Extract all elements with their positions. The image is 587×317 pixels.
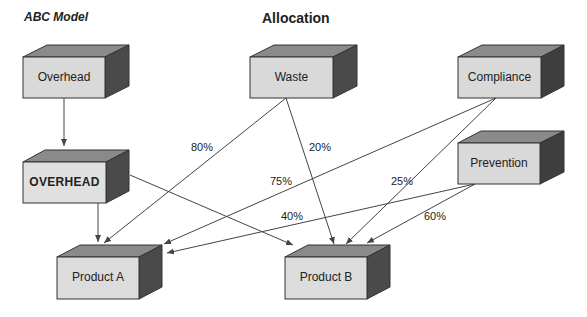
node-overhead-label: Overhead: [23, 70, 105, 84]
edge-prevention-to-product-b: [367, 184, 475, 243]
node-product-a-label: Product A: [57, 270, 139, 284]
edge-label-compliance-product-a: 75%: [270, 175, 292, 187]
node-prevention-label: Prevention: [458, 156, 540, 170]
node-product-b-label: Product B: [285, 270, 367, 284]
edge-waste-to-product-b: [286, 98, 334, 244]
edge-pool-to-product-b: [130, 175, 293, 245]
edge-label-waste-product-a: 80%: [191, 141, 213, 153]
node-overhead-pool-label: OVERHEAD: [23, 175, 106, 189]
node-compliance-label: Compliance: [458, 70, 541, 84]
edge-waste-to-product-a: [104, 98, 286, 243]
edge-label-waste-product-b: 20%: [309, 141, 331, 153]
edge-label-prevention-product-a: 40%: [281, 210, 303, 222]
node-waste-label: Waste: [250, 70, 333, 84]
edge-label-compliance-product-b: 25%: [391, 175, 413, 187]
edge-compliance-to-product-a: [164, 98, 496, 244]
edge-label-prevention-product-b: 60%: [424, 210, 446, 222]
